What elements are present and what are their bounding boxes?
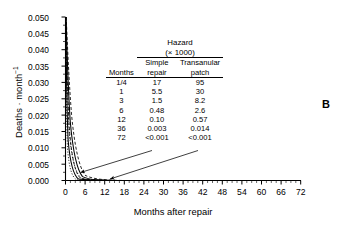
cell-transanular-patch: 2.6 xyxy=(177,106,223,115)
table-header-row-1: Simple Transanular xyxy=(106,58,223,68)
cell-simple-repair: 1.5 xyxy=(137,96,177,105)
table-row: 36 0.003 0.014 xyxy=(106,124,223,133)
cell-simple-repair: 17 xyxy=(137,77,177,87)
cell-transanular-patch: 95 xyxy=(177,77,223,87)
x-tick-label: 72 xyxy=(289,187,313,197)
cell-simple-repair: 0.003 xyxy=(137,124,177,133)
cell-months: 12 xyxy=(106,115,137,124)
table-row: 1 5.5 30 xyxy=(106,87,223,96)
cell-simple-repair: <0.001 xyxy=(137,133,177,142)
cell-transanular-patch: 0.57 xyxy=(177,115,223,124)
table-header-row-2: Months repair patch xyxy=(106,68,223,78)
cell-transanular-patch: <0.001 xyxy=(177,133,223,142)
table-row: 12 0.10 0.57 xyxy=(106,115,223,124)
y-axis-label-text: Deaths · month xyxy=(13,74,24,138)
column-header-simple-line1: Simple xyxy=(137,58,177,68)
column-header-patch-line1: Transanular xyxy=(177,58,223,68)
cell-months: 1/4 xyxy=(106,77,137,87)
table-title-row: Hazard xyxy=(106,38,223,48)
cell-months: 3 xyxy=(106,96,137,105)
y-tick-label: 0.000 xyxy=(5,176,49,186)
table-title: Hazard xyxy=(137,38,223,48)
cell-transanular-patch: 0.014 xyxy=(177,124,223,133)
column-header-months: Months xyxy=(106,68,137,78)
table-row: 72 <0.001 <0.001 xyxy=(106,133,223,142)
cell-months: 6 xyxy=(106,106,137,115)
table-subtitle: (× 1000) xyxy=(137,48,223,58)
column-header-simple-line2: repair xyxy=(137,68,177,78)
arrow-to-transanular-curve xyxy=(110,151,198,180)
table-row: 3 1.5 8.2 xyxy=(106,96,223,105)
cell-months: 72 xyxy=(106,133,137,142)
table-spacer-cell xyxy=(106,38,137,48)
table-spacer-cell xyxy=(106,58,137,68)
annotation-arrows xyxy=(81,151,199,180)
y-axis-label: Deaths · month−1 xyxy=(12,32,24,172)
cell-simple-repair: 0.10 xyxy=(137,115,177,124)
cell-transanular-patch: 8.2 xyxy=(177,96,223,105)
cell-simple-repair: 0.48 xyxy=(137,106,177,115)
column-header-patch-line2: patch xyxy=(177,68,223,78)
table-row: 6 0.48 2.6 xyxy=(106,106,223,115)
x-major-ticks xyxy=(66,181,301,185)
table-subtitle-row: (× 1000) xyxy=(106,48,223,58)
cell-simple-repair: 5.5 xyxy=(137,87,177,96)
cell-months: 36 xyxy=(106,124,137,133)
x-axis-label: Months after repair xyxy=(0,206,346,217)
y-tick-label: 0.050 xyxy=(5,13,49,23)
cell-transanular-patch: 30 xyxy=(177,87,223,96)
panel-letter: B xyxy=(322,98,330,110)
y-axis-label-exponent: −1 xyxy=(12,66,19,74)
hazard-table-grid: Hazard (× 1000) Simple Transanular Month… xyxy=(106,38,223,143)
hazard-table: Hazard (× 1000) Simple Transanular Month… xyxy=(106,38,223,143)
table-row: 1/4 17 95 xyxy=(106,77,223,87)
table-spacer-cell xyxy=(106,48,137,58)
cell-months: 1 xyxy=(106,87,137,96)
